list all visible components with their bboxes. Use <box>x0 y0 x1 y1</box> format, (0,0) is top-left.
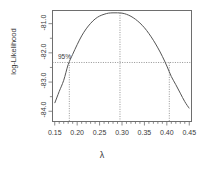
plot-frame <box>52 10 192 122</box>
x-tick-label-6: 0.45 <box>176 129 202 136</box>
y-tick-label-3: -84.0 <box>39 98 46 122</box>
confidence-level-label: 95% <box>58 53 71 60</box>
x-axis-title: λ <box>0 150 204 160</box>
y-tick-label-2: -83.0 <box>39 69 46 93</box>
y-tick-label-0: -81.0 <box>39 10 46 34</box>
y-axis-title: log-Likelihood <box>9 12 18 92</box>
boxcox-loglikelihood-plot: log-Likelihood λ -81.0-82.0-83.0-84.0 0.… <box>0 0 204 170</box>
y-tick-label-1: -82.0 <box>39 39 46 63</box>
